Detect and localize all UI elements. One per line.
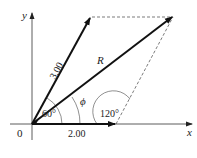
x-axis-label: x: [186, 126, 192, 138]
vector-addition-diagram: y x 0 3.00 2.00 R 60° ϕ 120°: [0, 0, 197, 158]
label-R: R: [96, 54, 104, 66]
origin-label: 0: [17, 127, 23, 139]
y-axis-label: y: [21, 9, 27, 21]
label-2-00: 2.00: [68, 128, 86, 139]
label-3-00: 3.00: [47, 60, 65, 81]
label-120: 120°: [100, 108, 119, 119]
dashed-right-side: [116, 17, 173, 124]
label-60: 60°: [42, 108, 56, 119]
label-phi: ϕ: [80, 95, 86, 107]
arc-phi: [72, 97, 80, 124]
